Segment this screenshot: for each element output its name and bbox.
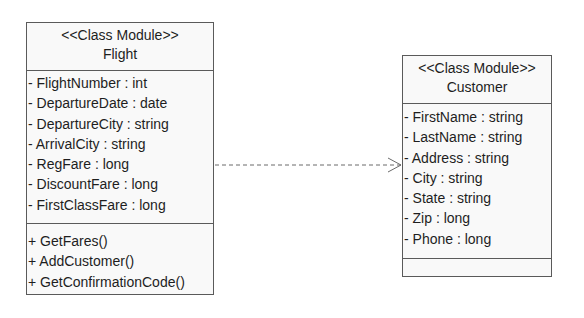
attribute: - City : string	[404, 168, 551, 188]
class-stereotype: <<Class Module>>	[403, 59, 551, 78]
attributes-section-flight: - FlightNumber : int - DepartureDate : d…	[27, 71, 213, 224]
attribute: - State : string	[404, 188, 551, 208]
attribute: - ArrivalCity : string	[28, 134, 213, 154]
class-header-customer: <<Class Module>> Customer	[403, 56, 551, 104]
attribute: - DiscountFare : long	[28, 174, 213, 194]
class-box-flight[interactable]: <<Class Module>> Flight - FlightNumber :…	[26, 22, 214, 295]
open-arrowhead-icon	[388, 158, 401, 172]
attribute: - LastName : string	[404, 127, 551, 147]
attribute: - FirstName : string	[404, 107, 551, 127]
class-name: Customer	[403, 78, 551, 97]
attribute: - RegFare : long	[28, 154, 213, 174]
operations-section-flight: + GetFares() + AddCustomer() + GetConfir…	[27, 224, 213, 292]
attribute: - DepartureDate : date	[28, 93, 213, 113]
attribute: - Address : string	[404, 148, 551, 168]
operation: + GetConfirmationCode()	[28, 272, 213, 292]
operations-section-customer	[403, 259, 551, 276]
class-box-customer[interactable]: <<Class Module>> Customer - FirstName : …	[402, 55, 552, 277]
class-name: Flight	[27, 45, 213, 64]
attribute: - Phone : long	[404, 229, 551, 249]
attribute: - FirstClassFare : long	[28, 195, 213, 215]
operation: + AddCustomer()	[28, 251, 213, 271]
attributes-section-customer: - FirstName : string - LastName : string…	[403, 104, 551, 259]
attribute: - DepartureCity : string	[28, 114, 213, 134]
class-stereotype: <<Class Module>>	[27, 26, 213, 45]
attribute: - Zip : long	[404, 208, 551, 228]
class-header-flight: <<Class Module>> Flight	[27, 23, 213, 71]
attribute: - FlightNumber : int	[28, 73, 213, 93]
operation: + GetFares()	[28, 231, 213, 251]
